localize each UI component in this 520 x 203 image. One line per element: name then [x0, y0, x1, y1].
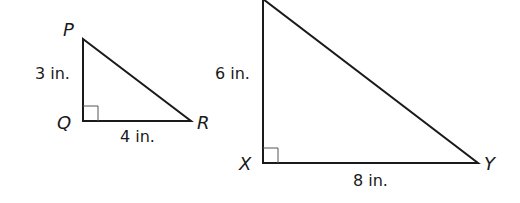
side-label-xy: 8 in.: [353, 173, 388, 189]
vertex-label-q: Q: [57, 114, 71, 132]
right-angle-marker-q: [83, 106, 98, 121]
similar-triangles-diagram: P 3 in. Q 4 in. R 6 in. X 8 in. Y: [0, 0, 520, 203]
vertex-label-r: R: [197, 114, 210, 132]
vertex-label-p: P: [63, 21, 74, 39]
vertex-label-y: Y: [484, 155, 495, 173]
right-angle-marker-x: [263, 148, 278, 163]
side-label-pq: 3 in.: [35, 66, 70, 82]
triangles-drawing: [0, 0, 520, 203]
side-label-qr: 4 in.: [120, 129, 155, 145]
side-label-vertical: 6 in.: [215, 66, 250, 82]
triangle-xy: [263, 0, 478, 163]
vertex-label-x: X: [239, 155, 251, 173]
triangle-pqr: [83, 39, 191, 121]
